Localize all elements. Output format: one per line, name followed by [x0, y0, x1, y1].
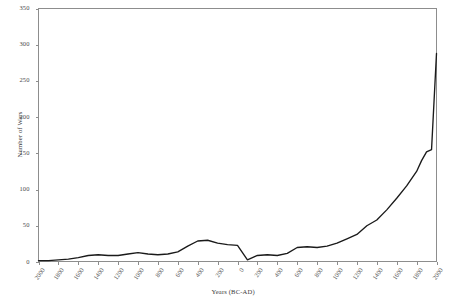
x-axis-tick-mark — [98, 262, 99, 265]
x-axis-tick-mark — [178, 262, 179, 265]
y-axis-tick-label: 300 — [4, 41, 30, 48]
x-axis-tick-mark — [158, 262, 159, 265]
x-axis-tick-mark — [417, 262, 418, 265]
x-axis-tick-mark — [218, 262, 219, 265]
x-axis-tick-mark — [198, 262, 199, 265]
plot-area-frame — [38, 8, 437, 262]
y-axis-tick-mark — [36, 190, 39, 191]
y-axis-title: Number of Wars — [15, 107, 22, 163]
x-axis-tick-mark — [357, 262, 358, 265]
x-axis-tick-mark — [397, 262, 398, 265]
y-axis-tick-label: 100 — [4, 186, 30, 193]
x-axis-tick-mark — [138, 262, 139, 265]
x-axis-tick-mark — [437, 262, 438, 265]
x-axis-tick-mark — [317, 262, 318, 265]
x-axis-tick-mark — [118, 262, 119, 265]
y-axis-tick-label: 350 — [4, 5, 30, 12]
x-axis-tick-mark — [238, 262, 239, 265]
x-axis-tick-mark — [78, 262, 79, 265]
x-axis-tick-mark — [257, 262, 258, 265]
y-axis-tick-label: 250 — [4, 77, 30, 84]
x-axis-tick-mark — [297, 262, 298, 265]
x-axis-tick-mark — [277, 262, 278, 265]
chart-container: 050100150200250300350 200018001600140012… — [0, 0, 450, 306]
x-axis-tick-mark — [337, 262, 338, 265]
y-axis-tick-mark — [36, 226, 39, 227]
y-axis-tick-mark — [36, 153, 39, 154]
x-axis-tick-mark — [58, 262, 59, 265]
x-axis-tick-mark — [377, 262, 378, 265]
y-axis-tick-mark — [36, 9, 39, 10]
y-axis-tick-mark — [36, 45, 39, 46]
y-axis-tick-label: 50 — [4, 222, 30, 229]
x-axis-title: Years (BC-AD) — [212, 288, 255, 295]
y-axis-tick-label: 0 — [4, 259, 30, 266]
y-axis-tick-mark — [36, 81, 39, 82]
x-axis-tick-mark — [39, 262, 40, 265]
y-axis-tick-mark — [36, 117, 39, 118]
